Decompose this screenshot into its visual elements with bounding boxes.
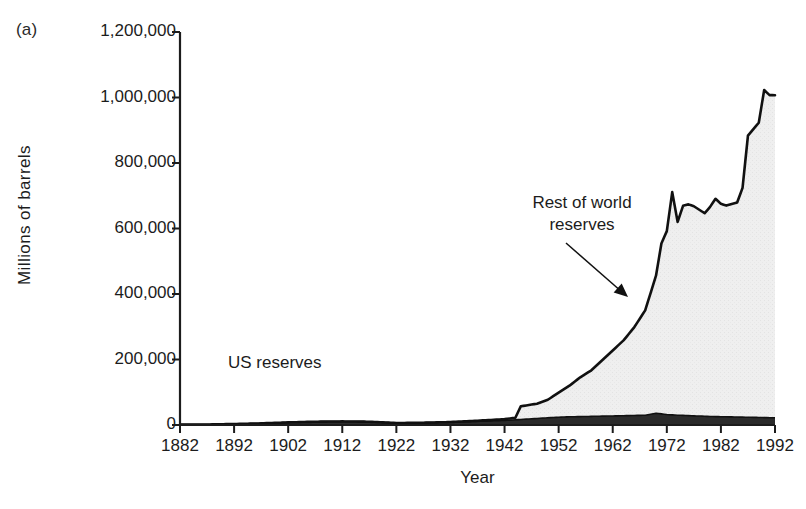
area-rest-of-world	[180, 90, 775, 425]
figure-panel: (a) Millions of barrels Year 0200,000400…	[0, 0, 806, 509]
chart-plot-area	[0, 0, 806, 509]
annotation-arrow-head	[614, 283, 628, 297]
annotation-arrow-line	[566, 243, 622, 292]
